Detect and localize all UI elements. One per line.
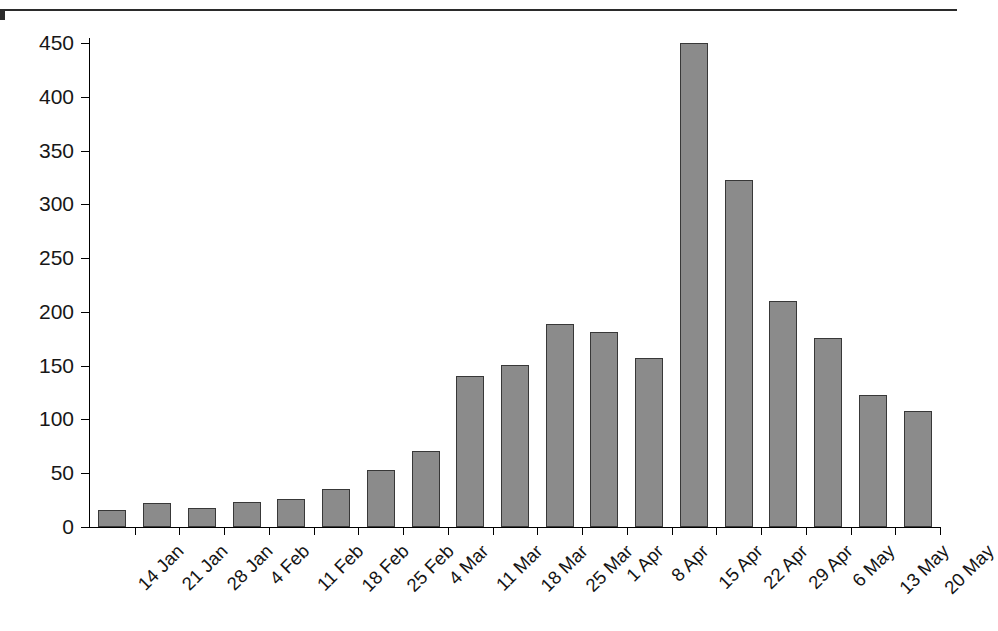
cut-off-title-strip: (cut off at top of image): [0, 0, 957, 9]
bar-chart: 050100150200250300350400450 14 Jan21 Jan…: [0, 11, 957, 631]
x-axis-tick-label: 18 Feb: [358, 541, 412, 595]
x-axis-tick-label: 29 Apr: [804, 541, 855, 592]
x-axis-tick-label: 4 Mar: [445, 541, 492, 588]
x-axis-tick-label: 28 Jan: [223, 541, 276, 594]
x-axis-tick-label: 18 Mar: [537, 541, 591, 595]
x-axis-tick-label: 22 Apr: [760, 541, 811, 592]
page-title: (cut off at top of image): [6, 0, 231, 1]
x-axis-tick-label: 13 May: [896, 541, 952, 597]
x-axis-tick-label: 11 Feb: [313, 541, 366, 594]
x-axis-tick-label: 4 Feb: [266, 541, 313, 588]
x-axis-tick-label: 11 Mar: [492, 541, 545, 594]
x-axis-tick-label: 21 Jan: [179, 541, 232, 594]
x-axis-labels: 14 Jan21 Jan28 Jan4 Feb11 Feb18 Feb25 Fe…: [0, 11, 957, 631]
x-axis-tick-label: 14 Jan: [134, 541, 187, 594]
x-axis-tick-label: 15 Apr: [715, 541, 766, 592]
x-axis-tick-label: 8 Apr: [667, 541, 711, 585]
x-axis-tick-label: 6 May: [848, 541, 897, 590]
x-axis-tick-label: 20 May: [941, 541, 997, 597]
